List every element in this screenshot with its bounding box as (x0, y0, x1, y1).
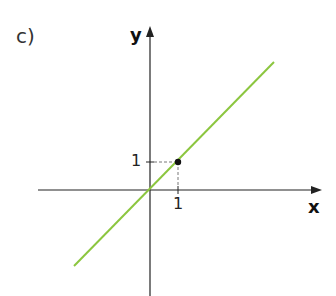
x-axis-arrow-icon (311, 186, 322, 194)
x-tick-label: 1 (173, 194, 183, 213)
y-axis-arrow-icon (146, 26, 154, 37)
x-axis-label: x (308, 196, 320, 217)
coordinate-plot (0, 0, 336, 296)
y-axis-label: y (130, 24, 142, 45)
y-tick-label: 1 (131, 151, 141, 170)
function-line (74, 62, 274, 266)
marked-point (175, 159, 181, 165)
